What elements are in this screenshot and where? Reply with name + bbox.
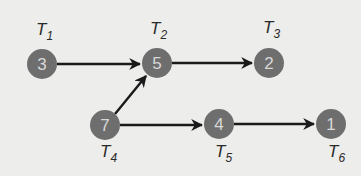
node-t6: 1 T6 bbox=[316, 109, 346, 165]
node-t3: 2 T3 bbox=[254, 18, 284, 78]
node-value: 1 bbox=[326, 115, 335, 134]
node-value: 7 bbox=[100, 116, 109, 135]
node-label: T2 bbox=[150, 19, 167, 42]
node-value: 2 bbox=[264, 54, 273, 73]
node-value: 4 bbox=[214, 115, 223, 134]
edge-t4-t2 bbox=[115, 76, 146, 114]
node-label: T1 bbox=[36, 20, 53, 43]
node-label: T4 bbox=[100, 142, 117, 165]
node-label: T3 bbox=[263, 18, 280, 41]
task-graph: 3 T1 5 T2 2 T3 7 T4 4 T5 1 T6 bbox=[0, 0, 361, 176]
node-t1: 3 T1 bbox=[27, 20, 57, 79]
node-t2: 5 T2 bbox=[142, 19, 172, 78]
node-t5: 4 T5 bbox=[204, 109, 234, 165]
node-label: T6 bbox=[328, 142, 345, 165]
node-value: 5 bbox=[152, 54, 161, 73]
node-label: T5 bbox=[215, 142, 232, 165]
node-value: 3 bbox=[37, 55, 46, 74]
node-t4: 7 T4 bbox=[90, 110, 120, 165]
